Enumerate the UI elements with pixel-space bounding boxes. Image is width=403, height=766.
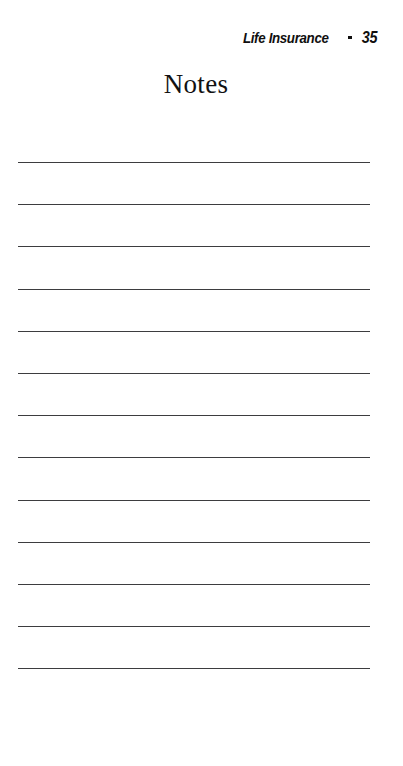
note-rule-line [18,626,370,627]
note-line-row [18,626,370,668]
page-number: 35 [362,29,377,47]
note-rule-line [18,204,370,205]
note-rule-line [18,542,370,543]
note-line-row [18,331,370,373]
note-line-row [18,457,370,499]
note-rule-line [18,246,370,247]
note-rule-line [18,584,370,585]
note-rule-line [18,457,370,458]
page-title: Notes [0,69,392,100]
note-line-row [18,204,370,246]
note-line-row [18,584,370,626]
note-rule-line [18,500,370,501]
note-rule-line [18,415,370,416]
bullet-dot-icon [348,36,352,40]
note-rule-line [18,331,370,332]
note-line-row [18,373,370,415]
note-line-row [18,542,370,584]
note-rule-line [18,373,370,374]
note-line-row [18,500,370,542]
note-line-row [18,289,370,331]
book-page: Life Insurance 35 Notes [0,0,403,766]
note-rule-line [18,289,370,290]
running-head: Life Insurance 35 [236,29,378,47]
note-line-row [18,162,370,204]
note-rule-line [18,162,370,163]
note-rule-line [18,668,370,669]
note-line-row [18,246,370,288]
running-head-section-title: Life Insurance [243,29,329,47]
notes-ruled-area [18,162,370,710]
note-line-row [18,668,370,710]
note-line-row [18,415,370,457]
